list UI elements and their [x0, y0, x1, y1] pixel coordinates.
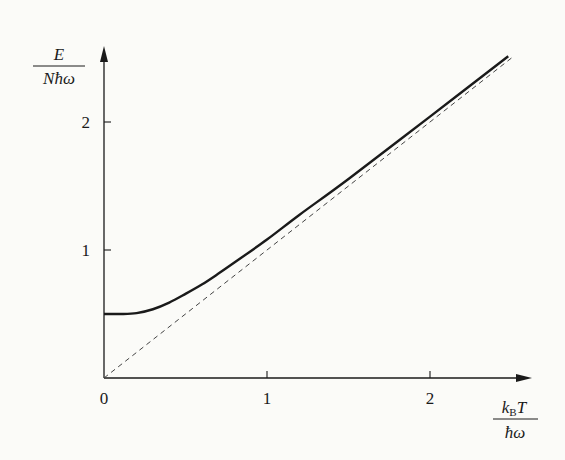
series-group — [104, 56, 512, 378]
y-tick-label: 1 — [82, 241, 91, 260]
x-tick-label: 0 — [100, 389, 109, 408]
x-axis-label: kBT ħω — [493, 398, 538, 442]
x-axis-arrow-icon — [516, 374, 532, 382]
y-ticks: 12 — [82, 113, 112, 260]
y-label-denominator: Nħω — [42, 69, 75, 88]
y-axis-arrow-icon — [100, 46, 108, 62]
y-label-numerator: E — [53, 45, 65, 64]
x-tick-label: 1 — [263, 389, 272, 408]
x-label-numerator: kBT — [502, 398, 528, 418]
energy-temperature-chart: 012 12 E Nħω kBT ħω — [0, 0, 565, 460]
x-label-denominator: ħω — [505, 423, 526, 442]
classical-limit-line — [104, 58, 512, 378]
x-ticks: 012 — [100, 371, 435, 408]
quantum-energy-curve — [104, 56, 508, 314]
y-axis-label: E Nħω — [33, 45, 85, 88]
x-tick-label: 2 — [426, 389, 435, 408]
y-tick-label: 2 — [82, 113, 91, 132]
